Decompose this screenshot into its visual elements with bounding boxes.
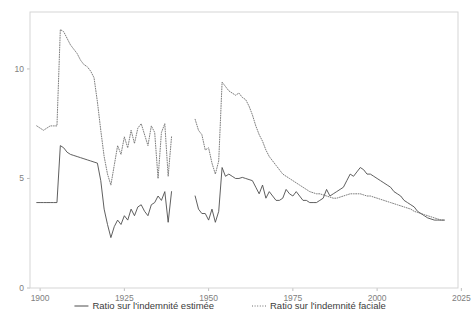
panel-border (30, 12, 458, 288)
chart-figure: 0510 190019251950197520002025 Ratio sur … (0, 0, 473, 320)
chart-legend: Ratio sur l'indemnité estiméeRatio sur l… (74, 300, 385, 311)
legend-item: Ratio sur l'indemnité estimée (74, 300, 214, 311)
legend-item: Ratio sur l'indemnité faciale (252, 300, 386, 311)
legend-label: Ratio sur l'indemnité faciale (270, 300, 386, 311)
y-axis-ticks: 0510 (15, 64, 30, 293)
series-path-1 (37, 30, 172, 186)
y-tick-label: 0 (19, 283, 24, 293)
series-group (37, 30, 445, 238)
y-tick-label: 5 (19, 173, 24, 183)
legend-label: Ratio sur l'indemnité estimée (92, 300, 214, 311)
line-chart: 0510 190019251950197520002025 Ratio sur … (0, 0, 473, 320)
x-tick-label: 2025 (452, 293, 471, 303)
series-path-0 (37, 146, 172, 238)
y-tick-label: 10 (15, 64, 25, 74)
series-path-1 (195, 82, 444, 220)
x-tick-label: 1900 (31, 293, 50, 303)
series-path-0 (195, 168, 444, 223)
